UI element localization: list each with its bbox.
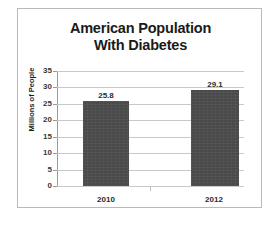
bar-2012[interactable]	[191, 90, 239, 186]
chart-title-line-2: With Diabetes	[18, 37, 263, 54]
chart-title-line-1: American Population	[18, 20, 263, 37]
y-axis-tick-labels: 35 30 25 20 15 10 5 0	[23, 9, 52, 209]
y-tick-label-35: 35	[26, 67, 52, 75]
x-tick-label-2010: 2010	[76, 195, 136, 204]
y-tick-label-5: 5	[26, 166, 52, 174]
gridline-35	[57, 71, 244, 72]
y-tick-label-0: 0	[26, 182, 52, 190]
chart-title: American Population With Diabetes	[18, 20, 263, 54]
bar-2010[interactable]	[83, 101, 129, 186]
bar-value-2012: 29.1	[192, 80, 238, 89]
y-tick-label-15: 15	[26, 133, 52, 141]
y-tick-label-25: 25	[26, 100, 52, 108]
bar-value-2010: 25.8	[83, 91, 129, 100]
y-tick-label-20: 20	[26, 116, 52, 124]
y-tick-label-10: 10	[26, 149, 52, 157]
x-axis-category-divider	[150, 187, 151, 191]
y-tick-label-30: 30	[26, 83, 52, 91]
x-tick-label-2012: 2012	[184, 195, 244, 204]
chart-container: American Population With Diabetes Millio…	[17, 8, 262, 208]
